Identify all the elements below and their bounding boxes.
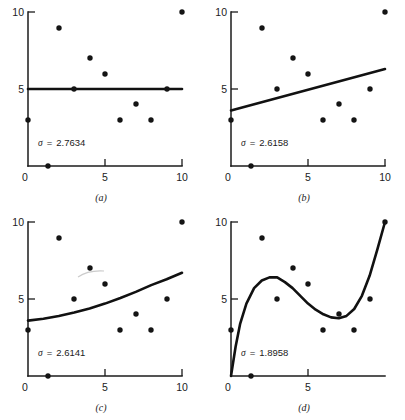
y-tick-label-5: 5 [18, 83, 24, 95]
y-tick-label-5: 5 [221, 83, 227, 95]
data-point [290, 265, 295, 270]
data-point [148, 327, 153, 332]
sigma-equals: = [250, 137, 256, 148]
data-point [274, 86, 279, 91]
data-point [164, 86, 169, 91]
data-point [367, 296, 372, 301]
sigma-equals: = [47, 347, 53, 358]
data-point [305, 281, 310, 286]
y-tick-label-5: 5 [221, 293, 227, 305]
data-point [56, 235, 61, 240]
panel-a-plot: 10 5 0 5 10 σ=2.7634 (a) [0, 0, 202, 210]
data-point [259, 235, 264, 240]
data-point [179, 219, 184, 224]
panel-a: 10 5 0 5 10 σ=2.7634 (a) [0, 0, 202, 210]
sigma-symbol: σ [241, 138, 246, 148]
data-point [117, 327, 122, 332]
data-point [351, 327, 356, 332]
y-tick-label-10: 10 [12, 216, 24, 228]
data-point [259, 25, 264, 30]
sigma-annotation: σ=2.7634 [38, 137, 85, 148]
data-point [148, 117, 153, 122]
data-point [320, 117, 325, 122]
data-point [71, 296, 76, 301]
data-point [87, 55, 92, 60]
data-point [320, 327, 325, 332]
data-point [305, 71, 310, 76]
sigma-value: 2.6158 [259, 137, 288, 148]
x-tick-label-0: 0 [22, 171, 28, 183]
sigma-symbol: σ [241, 348, 246, 358]
data-point [382, 9, 387, 14]
panel-caption: (b) [298, 192, 310, 204]
y-tick-label-10: 10 [215, 216, 227, 228]
x-tick-label-5: 5 [305, 171, 311, 183]
data-point [179, 9, 184, 14]
x-tick-label-5: 5 [305, 381, 311, 393]
x-tick-label-5: 5 [102, 171, 108, 183]
panel-d: 10 5 0 5 σ=1.8958 (d) [203, 210, 405, 420]
x-tick-label-10: 10 [176, 381, 188, 393]
sigma-equals: = [250, 347, 256, 358]
data-point [133, 311, 138, 316]
sigma-value: 1.8958 [259, 347, 288, 358]
sigma-annotation: σ=2.6158 [241, 137, 288, 148]
y-tick-label-5: 5 [18, 293, 24, 305]
x-tick-label-10: 10 [379, 171, 391, 183]
data-point [336, 311, 341, 316]
sigma-equals: = [47, 137, 53, 148]
panel-c: 10 5 0 5 10 σ=2.6141 [0, 210, 202, 420]
x-tick-label-5: 5 [102, 381, 108, 393]
data-point [228, 117, 233, 122]
data-point [164, 296, 169, 301]
data-point [87, 265, 92, 270]
data-point [274, 296, 279, 301]
sigma-value: 2.6141 [56, 347, 85, 358]
sigma-symbol: σ [38, 348, 43, 358]
sigma-annotation: σ=1.8958 [241, 347, 288, 358]
x-tick-label-0: 0 [22, 381, 28, 393]
data-point [71, 86, 76, 91]
fit-curve-quadratic [28, 273, 182, 321]
data-point [117, 117, 122, 122]
data-point [367, 86, 372, 91]
panel-b: 10 5 0 5 10 σ=2.6158 (b) [203, 0, 405, 210]
y-tick-label-10: 10 [215, 6, 227, 18]
panel-caption: (d) [298, 402, 310, 414]
sigma-symbol: σ [38, 138, 43, 148]
data-point [25, 327, 30, 332]
x-tick-label-10: 10 [176, 171, 188, 183]
data-point [248, 373, 253, 378]
data-point [25, 117, 30, 122]
panel-c-plot: 10 5 0 5 10 σ=2.6141 [0, 210, 202, 420]
sigma-annotation: σ=2.6141 [38, 347, 85, 358]
data-point [102, 281, 107, 286]
data-point [133, 101, 138, 106]
data-point [382, 219, 387, 224]
data-point [45, 163, 50, 168]
data-point [45, 373, 50, 378]
sigma-value: 2.7634 [56, 137, 85, 148]
panel-d-plot: 10 5 0 5 σ=1.8958 (d) [203, 210, 405, 420]
y-tick-label-10: 10 [12, 6, 24, 18]
data-point [290, 55, 295, 60]
scan-artifact-streak [78, 271, 104, 277]
x-tick-label-0: 0 [225, 171, 231, 183]
data-point [351, 117, 356, 122]
panel-caption: (a) [95, 192, 107, 204]
data-point [336, 101, 341, 106]
data-point [56, 25, 61, 30]
data-point [102, 71, 107, 76]
four-panel-scatter-figure: 10 5 0 5 10 σ=2.7634 (a) [0, 0, 405, 420]
panel-b-plot: 10 5 0 5 10 σ=2.6158 (b) [203, 0, 405, 210]
data-point [248, 163, 253, 168]
data-point [228, 327, 233, 332]
x-tick-label-0: 0 [225, 381, 231, 393]
panel-caption: (c) [95, 402, 107, 414]
